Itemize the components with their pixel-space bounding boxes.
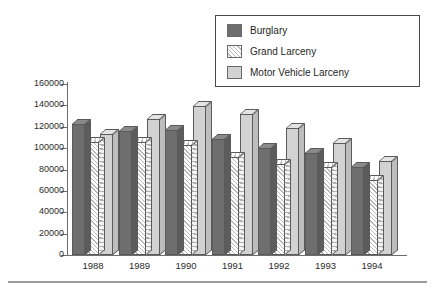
y-axis-tick-label: 0 xyxy=(22,250,64,259)
bar-side-face xyxy=(271,143,277,255)
bar-side-face xyxy=(346,138,352,255)
x-axis-tick-label-1992: 1992 xyxy=(257,261,301,271)
bar-side-face xyxy=(332,162,338,255)
bar-side-face xyxy=(378,175,384,255)
legend-swatch-grand-larceny xyxy=(227,45,242,58)
bar-side-face xyxy=(206,101,212,255)
x-axis-tick-label-1994: 1994 xyxy=(350,261,394,271)
y-axis-tick-label: 100000 xyxy=(22,143,64,152)
y-axis-tick-label: 140000 xyxy=(22,100,64,109)
bar-front-face xyxy=(351,167,364,255)
chart-legend: BurglaryGrand LarcenyMotor Vehicle Larce… xyxy=(215,15,420,87)
bar-burglary-1991 xyxy=(212,139,225,255)
bar-side-face xyxy=(99,137,105,255)
x-axis-tick-label-1990: 1990 xyxy=(164,261,208,271)
bar-side-face xyxy=(132,126,138,255)
bar-side-face xyxy=(113,129,119,255)
bar-burglary-1992 xyxy=(258,148,271,255)
bar-burglary-1990 xyxy=(165,130,178,255)
bar-side-face xyxy=(146,137,152,255)
bar-side-face xyxy=(253,109,259,255)
bar-side-face xyxy=(299,123,305,255)
bar-side-face xyxy=(318,148,324,255)
legend-label: Burglary xyxy=(250,24,287,37)
bar-side-face xyxy=(178,125,184,255)
x-axis-tick-label-1988: 1988 xyxy=(71,261,115,271)
bar-burglary-1989 xyxy=(119,131,132,255)
bar-front-face xyxy=(119,131,132,255)
y-axis-tick-label: 20000 xyxy=(22,229,64,238)
x-axis-tick-label-1991: 1991 xyxy=(211,261,255,271)
bar-front-face xyxy=(72,124,85,255)
x-axis-tick-label-1993: 1993 xyxy=(304,261,348,271)
bar-front-face xyxy=(165,130,178,255)
bar-side-face xyxy=(392,156,398,255)
bar-front-face xyxy=(258,148,271,255)
bar-side-face xyxy=(225,133,231,255)
y-axis-line xyxy=(67,82,68,256)
legend-label: Motor Vehicle Larceny xyxy=(250,66,349,79)
y-axis-tick-label: 40000 xyxy=(22,207,64,216)
legend-swatch-burglary xyxy=(227,24,242,37)
bar-side-face xyxy=(239,152,245,255)
footer-divider xyxy=(8,281,427,283)
x-axis-tick-label-1989: 1989 xyxy=(118,261,162,271)
bar-side-face xyxy=(192,140,198,255)
legend-swatch-motor-vehicle-larceny xyxy=(227,66,242,79)
y-axis-tick-label: 160000 xyxy=(22,79,64,88)
x-axis-line xyxy=(67,255,407,256)
bar-burglary-1988 xyxy=(72,124,85,255)
bar-burglary-1994 xyxy=(351,167,364,255)
legend-label: Grand Larceny xyxy=(250,45,316,58)
y-axis-tick-labels: 0200004000060000800001000001200001400001… xyxy=(14,0,64,290)
bar-side-face xyxy=(85,118,91,254)
bar-front-face xyxy=(212,139,225,255)
bar-side-face xyxy=(364,162,370,255)
bar-side-face xyxy=(160,114,166,255)
bar-front-face xyxy=(305,153,318,255)
bar-side-face xyxy=(285,159,291,255)
bar-chart-figure: 0200004000060000800001000001200001400001… xyxy=(0,0,435,290)
bar-burglary-1993 xyxy=(305,153,318,255)
y-axis-tick-label: 60000 xyxy=(22,186,64,195)
y-axis-tick-label: 120000 xyxy=(22,122,64,131)
y-axis-tick-label: 80000 xyxy=(22,165,64,174)
